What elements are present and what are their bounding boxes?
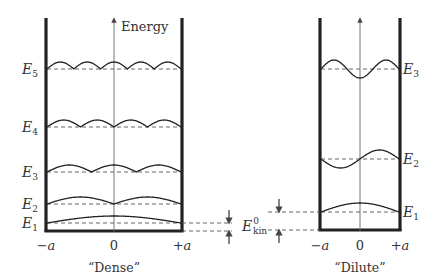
energy-level-E2: E2 (321, 150, 419, 169)
level-label: E3 (402, 61, 419, 79)
dilute-tick-zero: 0 (356, 238, 364, 253)
level-label: E1 (21, 215, 38, 233)
dense-tick-zero: 0 (110, 238, 118, 253)
dilute-tick-plus-a: +a (391, 238, 410, 253)
energy-level-E3: E3 (321, 60, 419, 79)
dilute-tick-minus-a: −a (311, 238, 330, 253)
dense-tick-minus-a: −a (37, 238, 56, 253)
level-label: E5 (21, 61, 38, 79)
kinetic-energy-marker: E0kin (182, 199, 320, 244)
level-label: E1 (402, 204, 419, 222)
dilute-caption: “Dilute” (334, 260, 385, 275)
dilute-well: E1E2E3 −a 0 +a “Dilute” (311, 18, 420, 275)
kinetic-energy-label: E0kin (241, 216, 267, 236)
dense-well: Energy E1E2E3E4E5 −a 0 +a “Dense” (21, 18, 191, 275)
energy-level-diagram: Energy E1E2E3E4E5 −a 0 +a “Dense” E1E2E3… (0, 0, 439, 278)
dense-caption: “Dense” (88, 260, 140, 275)
level-label: E2 (402, 151, 419, 169)
energy-axis-label: Energy (121, 19, 169, 34)
level-label: E3 (21, 164, 38, 182)
level-label: E4 (21, 119, 38, 137)
level-label: E2 (21, 196, 38, 214)
energy-level-E1: E1 (321, 203, 419, 222)
dense-tick-plus-a: +a (173, 238, 192, 253)
